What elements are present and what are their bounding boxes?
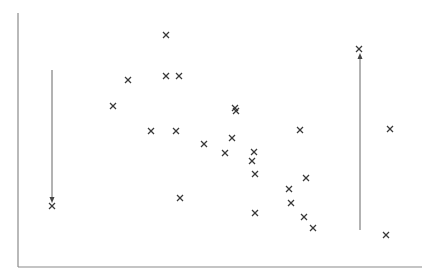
x-marker-icon <box>201 141 207 147</box>
x-marker-icon <box>288 200 294 206</box>
arrow-down-icon <box>50 70 55 203</box>
scatter-chart <box>0 0 427 278</box>
x-marker-icon <box>110 103 116 109</box>
x-marker-icon <box>387 126 393 132</box>
x-marker-icon <box>310 225 316 231</box>
x-marker-icon <box>222 150 228 156</box>
x-marker-icon <box>297 127 303 133</box>
x-marker-icon <box>303 175 309 181</box>
x-marker-icon <box>173 128 179 134</box>
x-marker-icon <box>252 210 258 216</box>
x-marker-icon <box>176 73 182 79</box>
x-marker-icon <box>229 135 235 141</box>
x-marker-icon <box>252 171 258 177</box>
arrow-up-icon <box>358 53 363 230</box>
x-marker-icon <box>383 232 389 238</box>
x-marker-icon <box>286 186 292 192</box>
data-points <box>49 32 393 238</box>
x-marker-icon <box>356 46 362 52</box>
x-marker-icon <box>163 73 169 79</box>
x-marker-icon <box>177 195 183 201</box>
x-marker-icon <box>249 158 255 164</box>
x-marker-icon <box>251 149 257 155</box>
x-marker-icon <box>163 32 169 38</box>
x-marker-icon <box>301 214 307 220</box>
x-marker-icon <box>49 203 55 209</box>
x-marker-icon <box>125 77 131 83</box>
x-marker-icon <box>148 128 154 134</box>
